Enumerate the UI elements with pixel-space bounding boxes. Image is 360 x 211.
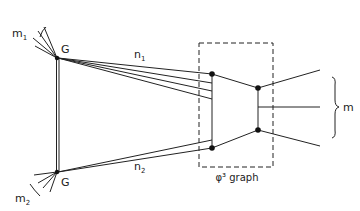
feynman-diagram: m1 G G m2 n1 n2 m φ³ graph	[0, 0, 360, 211]
label-g-bottom: G	[61, 176, 70, 189]
vertex-inner-bottom-left	[209, 145, 215, 151]
vertex-inner-top-left	[209, 71, 215, 77]
label-m1: m1	[12, 27, 27, 42]
vertex-inner-top-right	[255, 85, 261, 91]
m2-fan	[34, 172, 57, 192]
label-n2: n2	[134, 160, 145, 175]
vertex-g-bottom	[55, 170, 59, 174]
curly-brace	[332, 77, 339, 138]
m2-slash-mark	[30, 184, 40, 196]
label-g-top: G	[61, 43, 70, 56]
vertex-g-top	[55, 56, 59, 60]
top-edge	[212, 74, 258, 88]
label-m2: m2	[15, 192, 30, 207]
bottom-edge	[212, 130, 258, 148]
out-line-bottom	[258, 130, 320, 146]
out-line-top	[258, 70, 320, 88]
n1-lines	[58, 58, 212, 99]
label-m-out: m	[343, 101, 354, 114]
label-n1: n1	[134, 48, 145, 63]
m1-fan	[33, 27, 57, 58]
label-phi3-graph: φ³ graph	[215, 172, 258, 183]
vertex-inner-bottom-right	[255, 127, 261, 133]
